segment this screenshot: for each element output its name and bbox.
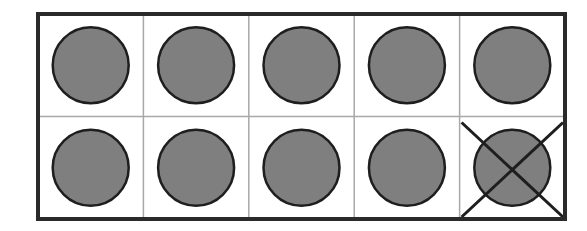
counter [264, 130, 340, 206]
counter [158, 27, 234, 103]
counter [53, 130, 129, 206]
counter [264, 27, 340, 103]
counter [369, 27, 445, 103]
counter [474, 27, 550, 103]
ten-frame [0, 0, 587, 231]
counter [369, 130, 445, 206]
counter [158, 130, 234, 206]
counter [53, 27, 129, 103]
